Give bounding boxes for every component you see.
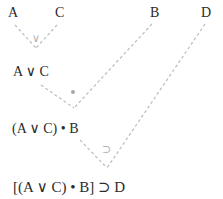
or-operator-label: ∨ [32,33,40,44]
connector-b [74,24,152,108]
node-conjunction: (A ∨ C) • B [12,122,79,136]
node-a-or-c: A ∨ C [13,65,49,79]
implies-operator-label: ⊃ [102,144,111,155]
atom-d: D [201,6,211,20]
connector-avc [41,85,74,108]
atom-b: B [150,6,159,20]
tree-connectors [0,0,223,199]
atom-c: C [55,6,64,20]
dot-operator-marker [71,90,75,94]
node-final-conditional: [(A ∨ C) • B] ⊃ D [13,180,125,194]
connector-d [107,24,205,168]
atom-a: A [8,6,18,20]
